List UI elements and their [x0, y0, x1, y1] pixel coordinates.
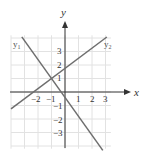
- x-axis-label: x: [133, 86, 139, 98]
- y-tick-1: 1: [57, 73, 62, 83]
- x-tick-3: 3: [103, 94, 108, 104]
- y-axis-arrow-icon: [62, 21, 68, 28]
- y-axis-label: y: [60, 6, 66, 18]
- x-tick-2: 2: [90, 94, 95, 104]
- x-axis-arrow-icon: [124, 89, 131, 95]
- y-tick-neg2: −2: [53, 115, 63, 125]
- y-tick-3: 3: [57, 46, 62, 56]
- y-tick-neg1: −1: [53, 101, 63, 111]
- x-tick-1: 1: [76, 94, 81, 104]
- line-y1-label: y1: [13, 39, 21, 50]
- y-tick-neg3: −3: [53, 128, 63, 138]
- x-tick-neg2: −2: [31, 94, 41, 104]
- graph: x y y1 y2 −2 −1 1 2 3 3 2 1 −1 −2 −3: [0, 0, 147, 156]
- y-tick-2: 2: [57, 60, 62, 70]
- line-y2-label: y2: [104, 39, 112, 50]
